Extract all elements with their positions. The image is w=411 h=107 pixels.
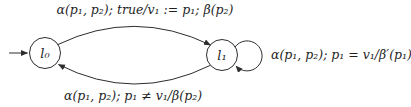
transition-l1-self-loop-label: α(p₁, p₂); p₁ = v₁/β′(p₁)	[271, 48, 411, 62]
transition-l0-to-l1-curve	[58, 26, 211, 45]
transition-l1-to-l0-label: α(p₁, p₂); p₁ ≠ v₁/β(p₂)	[64, 89, 202, 103]
state-l0-label: l₀	[40, 47, 49, 61]
automaton-diagram: l₀ l₁ α(p₁, p₂); true/v₁ := p₁; β(p₂) α(…	[0, 0, 411, 107]
transition-l1-to-l0-curve	[59, 65, 211, 85]
state-l1-label: l₁	[217, 49, 226, 63]
transition-l1-self-loop-curve	[235, 41, 262, 71]
transition-l0-to-l1-label: α(p₁, p₂); true/v₁ := p₁; β(p₂)	[57, 3, 234, 17]
